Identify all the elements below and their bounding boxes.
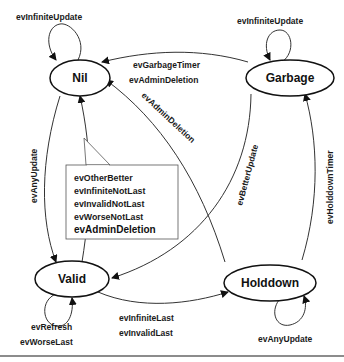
- label-nil-self: evInfiniteUpdate: [16, 12, 82, 22]
- label-refresh: evRefresh: [31, 322, 72, 332]
- label-admin-deletion-top: evAdminDeletion: [129, 75, 198, 85]
- state-nil: Nil: [50, 60, 110, 96]
- state-valid-label: Valid: [58, 272, 86, 286]
- state-holddown: Holddown: [224, 265, 316, 301]
- label-better-update: evBetterUpdate: [234, 143, 260, 207]
- label-garbage-self: evInfiniteUpdate: [237, 16, 303, 26]
- label-holddown-timer: evHolddownTimer: [325, 150, 335, 224]
- note-line-5: evAdminDeletion: [74, 224, 156, 235]
- label-invalid-last: evInvalidLast: [119, 328, 173, 338]
- edge-nil-to-valid: [44, 96, 60, 262]
- state-garbage-label: Garbage: [266, 71, 315, 85]
- state-garbage: Garbage: [246, 60, 334, 96]
- state-valid: Valid: [35, 261, 109, 297]
- state-holddown-label: Holddown: [241, 276, 299, 290]
- label-garbage-timer: evGarbageTimer: [133, 60, 201, 70]
- note-line-1: evOtherBetter: [74, 173, 133, 183]
- edge-valid-to-holddown: [98, 292, 228, 303]
- note-pointer: [84, 138, 110, 165]
- note-line-2: evInfiniteNotLast: [74, 186, 145, 196]
- note-line-4: evWorseNotLast: [74, 212, 143, 222]
- label-admin-deletion-diag: evAdminDeletion: [140, 90, 198, 145]
- state-nil-label: Nil: [72, 71, 87, 85]
- edge-garbage-self: [266, 30, 291, 62]
- label-infinite-last: evInfiniteLast: [119, 313, 174, 323]
- label-any-update-left: evAnyUpdate: [29, 148, 39, 203]
- edge-nil-self: [49, 24, 81, 60]
- label-holddown-self: evAnyUpdate: [258, 334, 313, 344]
- edge-holddown-to-garbage: [302, 94, 315, 260]
- state-diagram: Nil Garbage Valid Holddown evInfiniteUpd…: [0, 0, 344, 362]
- note-line-3: evInvalidNotLast: [74, 199, 144, 209]
- label-worse-last: evWorseLast: [20, 337, 73, 347]
